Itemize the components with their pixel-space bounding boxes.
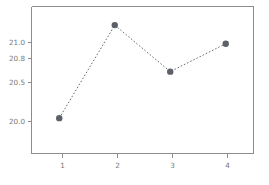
x-tick-label-3: 4 bbox=[225, 161, 230, 170]
x-tick-label-0: 1 bbox=[60, 161, 65, 170]
y-tick-label-2: 20.5 bbox=[9, 78, 25, 87]
y-tick-label-1: 20.8 bbox=[9, 54, 25, 63]
chart-container: 21.0 20.8 20.5 20.0 1 2 3 4 bbox=[0, 0, 269, 185]
data-point-marker bbox=[223, 41, 229, 47]
data-point-marker bbox=[167, 68, 173, 74]
y-tick-label-0: 21.0 bbox=[9, 38, 25, 47]
x-tick-label-2: 3 bbox=[170, 161, 175, 170]
chart-background bbox=[0, 0, 269, 185]
line-chart-plot: 21.0 20.8 20.5 20.0 1 2 3 4 bbox=[0, 0, 269, 185]
y-tick-label-3: 20.0 bbox=[9, 117, 25, 126]
x-tick-label-1: 2 bbox=[115, 161, 120, 170]
data-point-marker bbox=[112, 22, 118, 28]
data-point-marker bbox=[56, 115, 62, 121]
